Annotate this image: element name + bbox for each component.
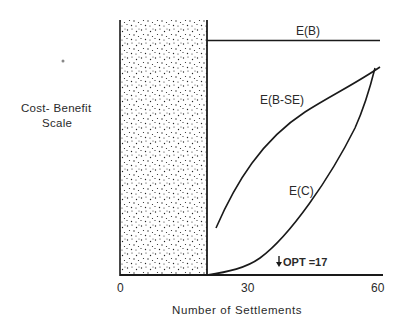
shaded-region: [120, 20, 207, 275]
y-axis-title-line2: Scale: [42, 117, 72, 129]
down-arrow-head-icon: [276, 262, 282, 267]
x-tick-30: 30: [241, 281, 255, 295]
series-eb-label: E(B): [296, 24, 320, 38]
x-axis-title: Number of Settlements: [172, 304, 302, 316]
artifact-mark: [62, 60, 65, 63]
cost-benefit-diagram: E(B) E(B-SE) E(C) OPT =17 0 30 60 Number…: [0, 0, 410, 331]
y-axis-title-line1: Cost- Benefit: [21, 102, 92, 114]
x-tick-60: 60: [371, 281, 385, 295]
opt-label: OPT =17: [283, 256, 327, 268]
series-ebse-curve: [216, 67, 380, 228]
x-tick-0: 0: [117, 281, 124, 295]
opt-marker: OPT =17: [276, 256, 327, 268]
series-ebse-label: E(B-SE): [260, 93, 304, 107]
series-ec-label: E(C): [289, 184, 314, 198]
